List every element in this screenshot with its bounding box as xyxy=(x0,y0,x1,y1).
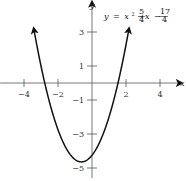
x-tick-label: −4 xyxy=(18,90,30,99)
parabola-curve xyxy=(34,28,129,162)
y-axis-label: y xyxy=(89,1,95,10)
x-tick-label: −2 xyxy=(52,90,64,99)
x-tick-label: 2 xyxy=(123,90,128,99)
ticks: −4−22431−1−3−5 xyxy=(18,28,162,173)
y-tick-label: 1 xyxy=(79,62,84,71)
chart: −4−22431−1−3−5 y = x 2 + 5 4 x − 17 4 x … xyxy=(0,0,186,181)
curve-layer xyxy=(34,28,129,162)
equation-x-term: x − xyxy=(145,12,161,21)
y-tick-label: 3 xyxy=(79,28,84,37)
y-tick-label: −3 xyxy=(72,130,84,139)
y-tick-label: −5 xyxy=(72,164,84,173)
fraction-2-denominator: 4 xyxy=(162,15,167,24)
fraction-1-denominator: 4 xyxy=(139,15,144,24)
x-tick-label: 4 xyxy=(157,90,162,99)
x-axis-label: x xyxy=(180,79,185,88)
y-tick-label: −1 xyxy=(72,96,84,105)
